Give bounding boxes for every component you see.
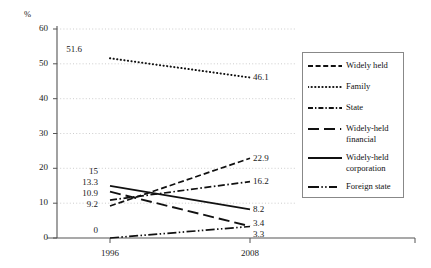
legend-item-family[interactable]: Family	[308, 81, 370, 92]
y-axis-unit-label: %	[24, 9, 31, 19]
legend-label-family: Family	[346, 81, 370, 92]
value-label-state-2008: 16.2	[253, 176, 269, 186]
value-label-financial-2008: 3.4	[253, 218, 264, 228]
x-tick-label-1996: 1996	[86, 248, 134, 258]
value-label-state-1996: 10.9	[62, 188, 98, 198]
y-tick-label-20: 20	[22, 162, 48, 172]
legend-item-widely-held[interactable]: Widely held	[308, 60, 388, 71]
chart-legend: Widely held Family State Widely-held fin…	[302, 52, 404, 198]
legend-swatch-solid-icon	[308, 153, 342, 163]
value-label-corporation-2008: 8.2	[253, 204, 264, 214]
legend-swatch-dash-dot-dot-icon	[308, 182, 342, 192]
legend-swatch-long-dash-icon	[308, 124, 342, 134]
value-label-widely-held-1996: 9.2	[62, 199, 98, 209]
y-axis-ticks	[53, 29, 57, 238]
chart-figure: % 60 50 40 30 20 10 0 1996 2008 51.6 15 …	[0, 0, 431, 268]
y-tick-label-0: 0	[22, 232, 48, 242]
legend-label-widely-held: Widely held	[346, 60, 388, 71]
y-tick-label-10: 10	[22, 197, 48, 207]
series-line-family	[110, 58, 250, 77]
y-tick-label-60: 60	[22, 23, 48, 33]
legend-label-state: State	[346, 102, 363, 113]
legend-item-widely-held-corporation[interactable]: Widely-held corporation	[308, 152, 389, 173]
value-label-family-1996: 51.6	[46, 44, 82, 54]
legend-label-widely-held-corporation: Widely-held corporation	[346, 152, 389, 173]
y-tick-label-50: 50	[22, 58, 48, 68]
value-label-widely-held-2008: 22.9	[253, 153, 269, 163]
value-label-foreign-state-1996: 0	[62, 225, 98, 235]
legend-label-foreign-state: Foreign state	[346, 181, 391, 192]
value-label-financial-1996: 13.3	[62, 177, 98, 187]
legend-swatch-dotted-icon	[308, 82, 342, 92]
y-tick-label-40: 40	[22, 93, 48, 103]
x-tick-label-2008: 2008	[226, 248, 274, 258]
legend-swatch-dashed-icon	[308, 61, 342, 71]
value-label-corporation-1996: 15	[62, 166, 98, 176]
value-label-family-2008: 46.1	[253, 72, 269, 82]
legend-item-widely-held-financial[interactable]: Widely-held financial	[308, 123, 389, 144]
legend-item-state[interactable]: State	[308, 102, 363, 113]
legend-label-widely-held-financial: Widely-held financial	[346, 123, 389, 144]
series-line-foreign-state	[110, 227, 250, 239]
series-line-widely-held	[110, 158, 250, 206]
value-label-foreign-state-2008: 3.3	[253, 229, 264, 239]
legend-swatch-dash-dot-icon	[308, 103, 342, 113]
legend-item-foreign-state[interactable]: Foreign state	[308, 181, 391, 192]
y-tick-label-30: 30	[22, 128, 48, 138]
